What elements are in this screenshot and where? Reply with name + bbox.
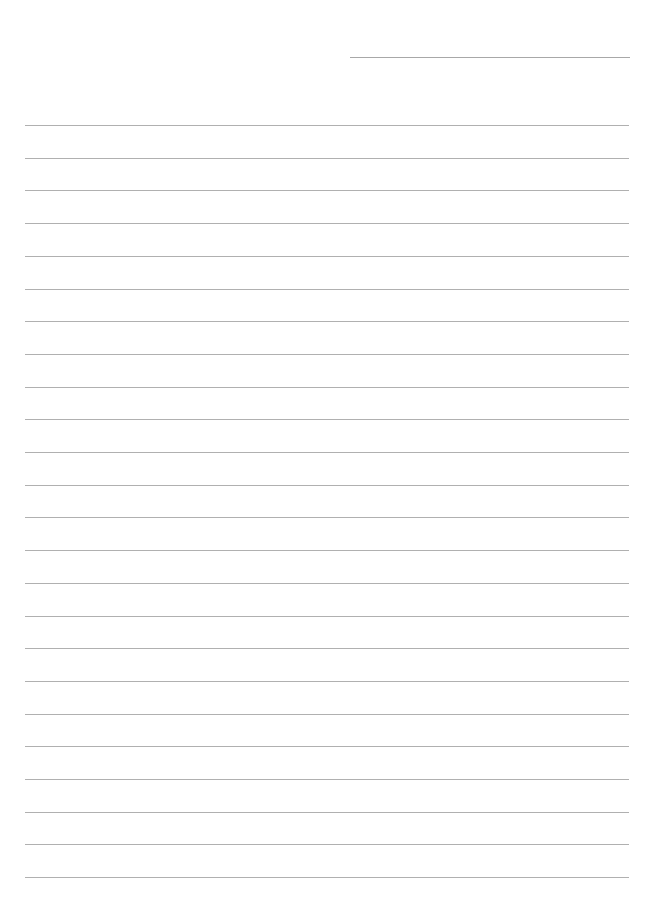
ruled-line [25,550,629,551]
ruled-line [25,681,629,682]
ruled-line [25,877,629,878]
ruled-line [25,125,629,126]
ruled-line [25,419,629,420]
ruled-line [25,812,629,813]
ruled-line [25,190,629,191]
ruled-line [25,746,629,747]
ruled-line [25,616,629,617]
ruled-line [25,387,629,388]
ruled-line [25,256,629,257]
ruled-line [25,517,629,518]
ruled-line [25,158,629,159]
ruled-line [25,354,629,355]
ruled-line [25,452,629,453]
ruled-line [25,714,629,715]
ruled-line [25,321,629,322]
ruled-line [25,289,629,290]
ruled-line [25,648,629,649]
ruled-line [25,844,629,845]
ruled-line [25,223,629,224]
ruled-line [25,485,629,486]
ruled-line [25,779,629,780]
ruled-line [25,583,629,584]
header-line [350,57,630,58]
